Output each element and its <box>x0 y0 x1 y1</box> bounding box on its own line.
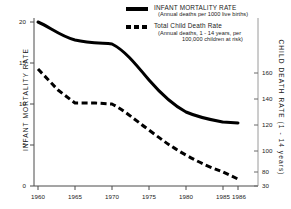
left-axis-ticks <box>30 22 34 186</box>
legend-solid-line-swatch-icon <box>126 7 148 11</box>
left-tick-label-0: 0 <box>12 182 26 189</box>
right-tick-label-100: 100 <box>262 147 278 154</box>
chart-legend: INFANT MORTALITY RATE (Annual deaths per… <box>126 4 288 47</box>
series-child-death-rate-line <box>38 69 240 180</box>
right-axis-title: CHILD DEATH RATE (1 - 14 years) <box>278 33 285 183</box>
x-tick-label-1960: 1960 <box>25 193 51 200</box>
legend-sub2-child-death-rate: 100,000 children at risk) <box>154 36 243 42</box>
legend-entry-infant-mortality: INFANT MORTALITY RATE (Annual deaths per… <box>126 4 288 17</box>
legend-entry-child-death-rate: Total Child Death Rate (Annual deaths, 1… <box>126 22 288 42</box>
right-tick-label-160: 160 <box>262 69 278 76</box>
legend-dashed-line-swatch-icon <box>126 25 148 29</box>
legend-title-infant-mortality: INFANT MORTALITY RATE <box>154 4 248 11</box>
right-tick-label-30: 30 <box>262 182 278 189</box>
x-tick-label-1980: 1980 <box>173 193 199 200</box>
x-axis-ticks <box>38 186 238 190</box>
right-tick-label-140: 140 <box>262 95 278 102</box>
legend-sub-infant-mortality: (Annual deaths per 1000 live births) <box>154 11 248 17</box>
x-tick-label-1975: 1975 <box>136 193 162 200</box>
legend-sub1-child-death-rate: (Annual deaths, 1 - 14 years, per <box>154 30 243 36</box>
legend-title-child-death-rate: Total Child Death Rate <box>154 22 243 29</box>
left-axis-title: INFANT MORTALITY RATE <box>22 25 29 175</box>
x-tick-label-1970: 1970 <box>99 193 125 200</box>
chart-figure: 20 15 10 5 0 160 140 120 100 80 30 1960 … <box>0 0 291 209</box>
right-tick-label-120: 120 <box>262 121 278 128</box>
x-tick-label-1965: 1965 <box>62 193 88 200</box>
x-tick-label-1986: 1986 <box>226 193 252 200</box>
right-axis-ticks <box>254 73 258 186</box>
right-tick-label-80: 80 <box>262 168 278 175</box>
